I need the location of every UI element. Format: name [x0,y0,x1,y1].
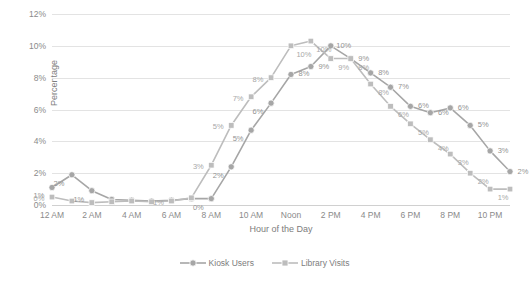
y-axis-tick-label: 2% [34,168,46,178]
data-point-marker [487,148,493,154]
data-point-marker [69,198,75,204]
data-point-marker [507,186,513,192]
data-point-marker [169,198,175,204]
y-axis-tick-label: 4% [34,136,46,146]
data-point-marker [487,186,493,192]
data-point-marker [228,123,234,129]
data-point-marker [308,63,314,69]
data-point-marker [189,195,195,201]
x-axis-tick-label: 10 PM [478,210,503,220]
data-point-marker [89,200,95,206]
series-lines [52,14,510,205]
x-axis-tick-label: 6 AM [162,210,181,220]
data-point-marker [208,196,214,202]
series-line-2 [52,41,510,203]
square-marker [272,258,298,268]
data-point-marker [388,104,394,110]
data-point-marker [368,81,374,87]
x-axis-tick-label: 2 PM [321,210,341,220]
data-point-marker [268,75,274,81]
legend-item-label: Library Visits [301,258,350,268]
x-axis-tick-label: 4 PM [361,210,381,220]
data-point-marker [209,162,215,168]
data-point-marker [288,43,294,49]
data-point-marker [408,121,414,127]
data-point-marker [288,71,294,77]
y-axis-tick-label: 6% [34,105,46,115]
data-point-marker [109,199,115,205]
x-axis-tick-label: 8 PM [440,210,460,220]
x-axis-tick-label: 10 AM [239,210,263,220]
data-point-marker [308,38,314,44]
data-point-marker [49,194,55,200]
line-chart: Percentage 0%2%4%6%8%10%12% 12 AM2 AM4 A… [0,0,529,284]
x-axis-tick-label: 12 AM [40,210,64,220]
y-axis-tick-label: 8% [34,73,46,83]
data-point-marker [407,103,413,109]
circle-marker [180,258,206,268]
data-point-marker [427,110,433,116]
data-point-marker [328,43,334,49]
data-point-marker [149,199,155,205]
data-point-marker [428,137,434,143]
plot-area: 0%2%4%6%8%10%12% 12 AM2 AM4 AM6 AM8 AM10… [52,14,510,205]
x-axis-title: Hour of the Day [52,224,510,234]
x-axis-line [52,205,510,206]
data-point-marker [89,188,95,194]
data-point-marker [467,122,473,128]
data-point-marker [129,198,135,204]
series-line-1 [52,46,510,201]
data-point-marker [248,127,254,133]
legend-item[interactable]: Kiosk Users [180,258,254,268]
data-point-marker [228,164,234,170]
data-point-label: 1% [34,191,45,200]
data-point-marker [368,70,374,76]
y-axis-tick-label: 10% [29,41,46,51]
y-axis-tick-label: 0% [34,200,46,210]
legend-item-label: Kiosk Users [209,258,254,268]
data-point-marker [447,105,453,111]
y-axis-tick-label: 12% [29,9,46,19]
data-point-marker [467,170,473,176]
data-point-marker [447,151,453,157]
data-point-marker [348,56,354,62]
data-point-marker [328,56,334,62]
data-point-marker [507,168,513,174]
data-point-label: 2% [518,166,529,175]
data-point-marker [248,94,254,100]
data-point-marker [49,184,55,190]
x-axis-tick-label: Noon [281,210,301,220]
x-axis-tick-label: 6 PM [401,210,421,220]
chart-legend: Kiosk UsersLibrary Visits [0,258,529,268]
data-point-marker [387,84,393,90]
x-axis-tick-label: 8 AM [202,210,221,220]
x-axis-tick-label: 2 AM [82,210,101,220]
legend-item[interactable]: Library Visits [272,258,350,268]
data-point-marker [268,100,274,106]
data-point-marker [69,172,75,178]
x-axis-tick-label: 4 AM [122,210,141,220]
